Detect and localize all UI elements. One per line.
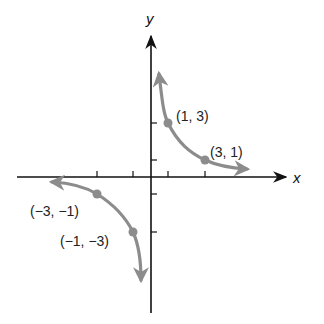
point-1-3 xyxy=(164,119,173,128)
label-point-3-1: (3, 1) xyxy=(210,144,243,160)
label-point-neg1-neg3: (−1, −3) xyxy=(60,233,109,249)
x-axis-label: x xyxy=(292,169,301,186)
point-neg1-neg3 xyxy=(129,228,138,237)
hyperbola-plot: x y (1, 3) (3, 1) (−3, −1) (−1, −3) xyxy=(0,0,324,324)
label-point-1-3: (1, 3) xyxy=(176,108,209,124)
point-neg3-neg1 xyxy=(93,190,102,199)
point-3-1 xyxy=(201,156,210,165)
label-point-neg3-neg1: (−3, −1) xyxy=(30,203,79,219)
y-axis-label: y xyxy=(145,10,155,27)
